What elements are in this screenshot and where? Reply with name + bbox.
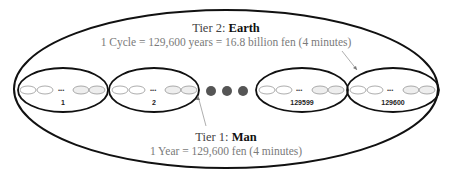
- tier2-title: Tier 2: Earth: [192, 21, 260, 35]
- ellipsis-dot: [238, 86, 248, 96]
- tier1-subtitle: 1 Year = 129,600 fen (4 minutes): [150, 145, 302, 158]
- year-group-label: 129600: [381, 99, 404, 106]
- year-group-1: ••• 1: [18, 68, 108, 112]
- svg-text:•••: •••: [150, 87, 156, 93]
- year-group-label: 1: [61, 99, 65, 106]
- year-group-129600: ••• 129600: [347, 68, 439, 112]
- year-group-129599: ••• 129599: [256, 68, 348, 112]
- svg-text:•••: •••: [387, 87, 393, 93]
- tier2-arrowhead-icon: [353, 66, 357, 70]
- year-group-label: 129599: [290, 99, 313, 106]
- tier-diagram: Tier 2: Earth 1 Cycle = 129,600 years = …: [0, 0, 453, 177]
- year-group-label: 2: [152, 99, 156, 106]
- ellipsis-dot: [222, 86, 232, 96]
- year-group-2: ••• 2: [109, 68, 199, 112]
- tier2-subtitle: 1 Cycle = 129,600 years = 16.8 billion f…: [101, 36, 352, 49]
- svg-text:•••: •••: [296, 87, 302, 93]
- tier1-title: Tier 1: Man: [195, 130, 256, 144]
- ellipsis-dot: [206, 86, 216, 96]
- svg-text:•••: •••: [58, 87, 64, 93]
- tier1-arrow: [198, 96, 206, 126]
